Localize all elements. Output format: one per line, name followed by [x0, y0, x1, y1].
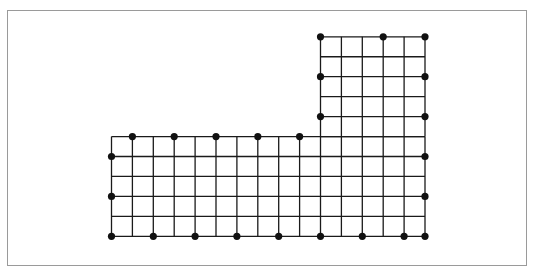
grid-point-dot	[421, 113, 428, 120]
grid-point-dot	[421, 233, 428, 240]
grid-point-dot	[108, 153, 115, 160]
grid-point-dot	[171, 133, 178, 140]
grid-point-dot	[421, 193, 428, 200]
grid-point-dot	[212, 133, 219, 140]
grid-point-dot	[150, 233, 157, 240]
grid-point-dot	[317, 113, 324, 120]
grid-point-dot	[254, 133, 261, 140]
grid-point-dot	[421, 33, 428, 40]
grid-point-dot	[233, 233, 240, 240]
grid-point-dot	[108, 233, 115, 240]
l-shaped-grid-diagram	[0, 0, 537, 276]
grid-point-dot	[317, 33, 324, 40]
grid-lines	[112, 37, 426, 237]
grid-point-dot	[401, 233, 408, 240]
grid-point-dot	[129, 133, 136, 140]
grid-point-dot	[275, 233, 282, 240]
grid-point-dot	[380, 33, 387, 40]
grid-point-dot	[317, 233, 324, 240]
grid-point-dot	[359, 233, 366, 240]
grid-point-dot	[108, 193, 115, 200]
grid-point-dot	[296, 133, 303, 140]
grid-point-dot	[421, 73, 428, 80]
grid-point-dot	[317, 73, 324, 80]
grid-point-dot	[421, 153, 428, 160]
grid-point-dot	[192, 233, 199, 240]
